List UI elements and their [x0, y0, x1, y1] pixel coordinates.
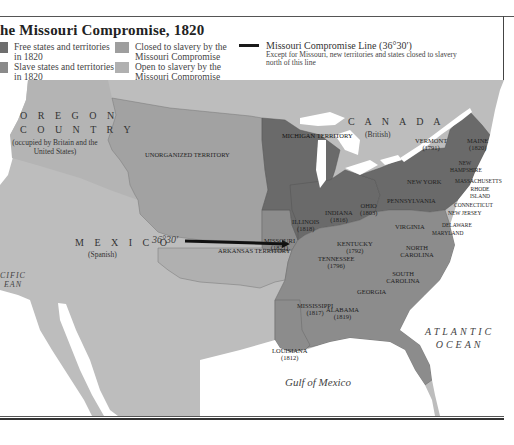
label-pacific: CIFICEAN — [0, 271, 26, 289]
tennessee-name: TENNESSEE — [318, 255, 354, 262]
tennessee-year: (1796) — [328, 262, 345, 269]
label-massachusetts: MASSACHUSETTS — [455, 178, 502, 185]
bottom-rule-thin — [0, 416, 504, 417]
florida-name2: TERRITORY — [368, 352, 404, 359]
missouri-year: (1821) — [271, 244, 288, 251]
map: O R E G O N C O U N T R Y (occupied by B… — [0, 80, 504, 416]
legend-closed-text1: Closed to slavery by the — [135, 42, 227, 52]
kentucky-name: KENTUCKY — [337, 240, 373, 247]
label-missouri: MISSOURI(1821) — [264, 237, 295, 251]
legend-closed-text2: Missouri Compromise — [135, 52, 227, 62]
label-atlantic: ATLANTICOCEAN — [425, 325, 494, 351]
legend-swatch-closed — [115, 42, 129, 53]
legend-closed: Closed to slavery by theMissouri Comprom… — [115, 42, 227, 62]
florida-name1: FLORIDA — [372, 345, 400, 352]
legend-swatch-free — [0, 42, 8, 53]
label-oregon-sub: (occupied by Britain and the United Stat… — [10, 138, 100, 156]
label-illinois: ILLINOIS(1818) — [292, 218, 319, 232]
label-virginia: VIRGINIA — [395, 223, 425, 230]
label-new-hampshire: NEW HAMPSHIRE — [450, 160, 480, 174]
legend-free-text1: Free states and territories — [14, 42, 110, 52]
legend-slave: Slave states and territoriesin 1820 — [0, 62, 114, 82]
vermont-year: (1791) — [422, 144, 439, 151]
label-michigan: MICHIGAN TERRITORY — [282, 132, 353, 139]
illinois-name: ILLINOIS — [292, 218, 319, 225]
legend-compromise-line-note: Except for Missouri, new territories and… — [266, 51, 466, 67]
label-compromise-line: 36°30′ — [152, 234, 178, 245]
atlantic-line1: ATLANTIC — [425, 326, 494, 337]
indiana-year: (1816) — [330, 216, 347, 223]
label-connecticut: CONNECTICUT — [454, 202, 493, 209]
bottom-rule-thick — [0, 418, 504, 420]
kentucky-year: (1792) — [346, 247, 363, 254]
label-north-carolina: NORTH CAROLINA — [399, 244, 435, 258]
label-alabama: ALABAMA(1819) — [326, 306, 359, 320]
legend-swatch-slave — [0, 62, 8, 73]
indiana-name: INDIANA — [325, 209, 353, 216]
maine-name: MAINE — [467, 137, 488, 144]
louisiana-year: (1812) — [281, 354, 298, 361]
mississippi-year: (1817) — [306, 309, 323, 316]
legend-free: Free states and territoriesin 1820 — [0, 42, 110, 62]
legend-compromise-line-swatch — [239, 44, 259, 47]
label-canada: C A N A D A — [348, 116, 445, 127]
label-vermont: VERMONT(1791) — [415, 137, 447, 151]
label-maryland: MARYLAND — [432, 230, 463, 237]
label-canada-sub: (British) — [365, 130, 390, 139]
map-title: he Missouri Compromise, 1820 — [0, 22, 204, 39]
label-pennsylvania: PENNSYLVANIA — [387, 197, 436, 204]
label-new-jersey: NEW JERSEY — [448, 210, 481, 217]
vermont-name: VERMONT — [415, 137, 447, 144]
alabama-name: ALABAMA — [326, 306, 359, 313]
label-south-carolina: SOUTH CAROLINA — [385, 270, 421, 284]
label-maine: MAINE(1820) — [467, 137, 488, 151]
label-louisiana: LOUISIANA(1812) — [272, 347, 307, 361]
label-georgia: GEORGIA — [357, 288, 386, 295]
ohio-name: OHIO — [361, 202, 377, 209]
top-rule — [0, 16, 514, 17]
ohio-year: (1803) — [360, 209, 377, 216]
maine-year: (1820) — [469, 144, 486, 151]
label-oregon-2: C O U N T R Y — [20, 124, 135, 135]
label-new-york: NEW YORK — [407, 178, 441, 185]
label-indiana: INDIANA(1816) — [325, 209, 353, 223]
label-florida: FLORIDATERRITORY — [368, 345, 404, 359]
label-oregon-1: O R E G O N — [20, 110, 118, 121]
label-mexico-sub: (Spanish) — [88, 250, 117, 259]
pacific-line1: CIFIC — [0, 271, 26, 280]
illinois-year: (1818) — [297, 225, 314, 232]
louisiana-name: LOUISIANA — [272, 347, 307, 354]
legend-slave-text1: Slave states and territories — [14, 62, 114, 72]
legend-free-text2: in 1820 — [14, 52, 110, 62]
legend-open: Open to slavery by theMissouri Compromis… — [115, 62, 221, 82]
legend-open-text1: Open to slavery by the — [135, 62, 221, 72]
alabama-year: (1819) — [334, 313, 351, 320]
pacific-line2: EAN — [4, 280, 22, 289]
missouri-name: MISSOURI — [264, 237, 295, 244]
label-gulf-of-mexico: Gulf of Mexico — [285, 376, 351, 388]
label-kentucky: KENTUCKY(1792) — [337, 240, 373, 254]
label-tennessee: TENNESSEE(1796) — [318, 255, 354, 269]
label-unorganized: UNORGANIZED TERRITORY — [145, 151, 230, 158]
label-delaware: DELAWARE — [442, 222, 472, 229]
atlantic-line2: OCEAN — [436, 339, 484, 350]
legend-swatch-open — [115, 62, 129, 73]
label-rhode-island: RHODE ISLAND — [468, 186, 492, 200]
label-ohio: OHIO(1803) — [360, 202, 377, 216]
